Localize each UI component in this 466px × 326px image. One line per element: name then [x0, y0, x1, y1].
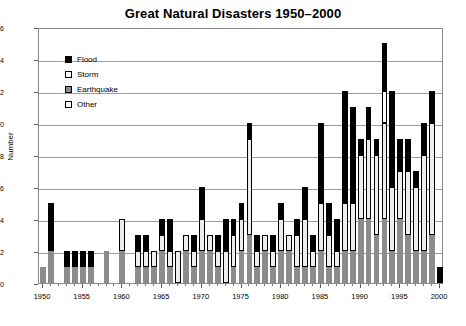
bar-1958[interactable] — [104, 251, 110, 283]
bar-segment-quake-1954 — [72, 267, 78, 283]
x-tick-label-1985: 1985 — [305, 292, 335, 301]
bar-1968[interactable] — [183, 235, 189, 283]
bar-segment-flood-1970 — [199, 187, 205, 219]
bar-segment-other-1979 — [270, 251, 276, 267]
bar-segment-other-1994 — [389, 187, 395, 251]
bar-1950[interactable] — [40, 267, 46, 283]
bar-segment-quake-1951 — [48, 251, 54, 283]
bar-1974[interactable] — [231, 219, 237, 283]
bar-1964[interactable] — [151, 251, 157, 283]
bar-segment-quake-1956 — [88, 267, 94, 283]
legend-item-earthquake[interactable]: Earthquake — [65, 82, 155, 97]
bar-1951[interactable] — [48, 203, 54, 283]
bar-1975[interactable] — [239, 203, 245, 283]
bar-1986[interactable] — [326, 203, 332, 283]
bar-segment-flood-1966 — [167, 219, 173, 251]
bar-segment-flood-1987 — [334, 219, 340, 251]
bar-segment-flood-1975 — [239, 203, 245, 219]
bar-segment-other-1991 — [366, 139, 372, 219]
y-tick-label-10: 10 — [0, 121, 4, 128]
bar-segment-flood-1983 — [302, 187, 308, 219]
x-tick-minor-1951 — [50, 284, 51, 286]
bar-1963[interactable] — [143, 235, 149, 283]
bar-1972[interactable] — [215, 235, 221, 283]
y-tick-label-8: 8 — [0, 153, 4, 160]
bar-segment-quake-1992 — [374, 235, 380, 283]
bar-1977[interactable] — [254, 235, 260, 283]
bar-1962[interactable] — [135, 235, 141, 283]
bar-1997[interactable] — [413, 171, 419, 283]
bar-1967[interactable] — [175, 251, 181, 283]
bar-1956[interactable] — [88, 251, 94, 283]
bar-1960[interactable] — [119, 219, 125, 283]
legend-item-other[interactable]: Other — [65, 97, 155, 112]
bar-segment-quake-1970 — [199, 251, 205, 283]
bar-1999[interactable] — [429, 91, 435, 283]
bar-1965[interactable] — [159, 219, 165, 283]
legend-item-flood[interactable]: Flood — [65, 52, 155, 67]
bar-1971[interactable] — [207, 235, 213, 283]
bar-1993[interactable] — [382, 43, 388, 283]
bar-1982[interactable] — [294, 219, 300, 283]
x-tick-minor-1998 — [423, 284, 424, 286]
x-tick-minor-1966 — [169, 284, 170, 286]
legend-item-storm[interactable]: Storm — [65, 67, 155, 82]
x-tick-mark-1955 — [82, 284, 83, 288]
bar-1992[interactable] — [374, 139, 380, 283]
x-tick-minor-1979 — [272, 284, 273, 286]
bar-1983[interactable] — [302, 187, 308, 283]
x-tick-mark-1970 — [201, 284, 202, 288]
y-tick-label-12: 12 — [0, 89, 4, 96]
bar-1970[interactable] — [199, 187, 205, 283]
y-axis-title: Number — [6, 117, 15, 177]
bar-1994[interactable] — [389, 91, 395, 283]
bar-1980[interactable] — [278, 203, 284, 283]
bar-segment-quake-1978 — [262, 251, 268, 283]
bar-1987[interactable] — [334, 219, 340, 283]
chart-figure: Great Natural Disasters 1950–2000 024681… — [0, 0, 466, 326]
bar-1978[interactable] — [262, 235, 268, 283]
bar-segment-other-1966 — [167, 251, 173, 267]
x-tick-minor-1978 — [264, 284, 265, 286]
bar-1979[interactable] — [270, 235, 276, 283]
other-swatch — [65, 101, 72, 108]
bar-1973[interactable] — [223, 219, 229, 283]
bar-1984[interactable] — [310, 235, 316, 283]
bar-segment-flood-1982 — [294, 219, 300, 235]
bar-segment-quake-1975 — [239, 251, 245, 283]
bar-segment-quake-1994 — [389, 251, 395, 283]
x-tick-label-2000: 2000 — [424, 292, 454, 301]
bar-1989[interactable] — [350, 107, 356, 283]
bar-1953[interactable] — [64, 251, 70, 283]
bar-segment-quake-1980 — [278, 251, 284, 283]
x-tick-mark-1975 — [241, 284, 242, 288]
bar-1966[interactable] — [167, 219, 173, 283]
x-tick-minor-1954 — [74, 284, 75, 286]
x-tick-minor-1968 — [185, 284, 186, 286]
bar-segment-flood-1988 — [342, 91, 348, 203]
bar-segment-flood-1956 — [88, 251, 94, 267]
bar-1990[interactable] — [358, 139, 364, 283]
bar-1996[interactable] — [405, 139, 411, 283]
bar-segment-flood-1976 — [247, 123, 253, 139]
x-tick-mark-2000 — [439, 284, 440, 288]
bar-1991[interactable] — [366, 107, 372, 283]
bar-1976[interactable] — [247, 123, 253, 283]
bar-segment-flood-1972 — [215, 235, 221, 251]
x-tick-minor-1981 — [288, 284, 289, 286]
bar-2000[interactable] — [437, 267, 443, 283]
bar-1954[interactable] — [72, 251, 78, 283]
bar-1985[interactable] — [318, 123, 324, 283]
bar-segment-flood-1969 — [191, 235, 197, 251]
bar-1955[interactable] — [80, 251, 86, 283]
x-tick-minor-1957 — [98, 284, 99, 286]
x-tick-minor-1986 — [328, 284, 329, 286]
bar-1981[interactable] — [286, 235, 292, 283]
y-tick-label-4: 4 — [0, 217, 4, 224]
bar-1988[interactable] — [342, 91, 348, 283]
x-tick-minor-1993 — [383, 284, 384, 286]
bar-segment-quake-1960 — [119, 251, 125, 283]
bar-1995[interactable] — [397, 139, 403, 283]
bar-1969[interactable] — [191, 235, 197, 283]
bar-1998[interactable] — [421, 123, 427, 283]
